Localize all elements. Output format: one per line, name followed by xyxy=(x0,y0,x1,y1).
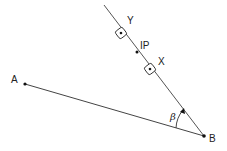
marker-x xyxy=(144,63,157,76)
label-b: B xyxy=(209,133,216,144)
point-ip xyxy=(136,51,139,54)
marker-y xyxy=(115,27,128,40)
point-a xyxy=(23,82,26,85)
line-a-b xyxy=(25,84,204,136)
point-b xyxy=(202,134,206,138)
diagram-canvas: A Y IP X B β xyxy=(0,0,227,151)
label-ip: IP xyxy=(140,40,150,51)
label-beta: β xyxy=(169,111,176,122)
label-a: A xyxy=(11,74,18,85)
label-y: Y xyxy=(127,15,134,26)
label-x: X xyxy=(158,56,165,67)
